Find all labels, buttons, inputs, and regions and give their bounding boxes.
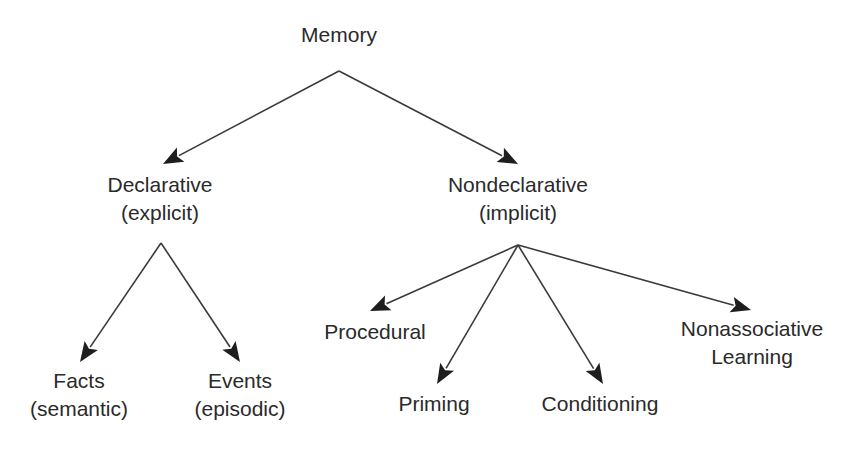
edge-declarative-to-facts	[80, 243, 161, 362]
edge-nondeclarative-to-priming	[437, 245, 518, 384]
node-nonassociative: NonassociativeLearning	[681, 317, 823, 368]
edge-nondeclarative-to-procedural	[370, 245, 518, 311]
node-label-nondeclarative-line-2: (implicit)	[479, 201, 557, 224]
node-facts: Facts(semantic)	[30, 369, 128, 420]
edge-line	[339, 71, 502, 156]
node-label-conditioning-line-1: Conditioning	[542, 392, 659, 415]
edge-line	[518, 245, 734, 305]
node-procedural: Procedural	[324, 320, 426, 343]
node-label-memory-line-1: Memory	[301, 23, 377, 46]
arrowhead-icon	[222, 341, 240, 362]
arrowhead-icon	[437, 363, 454, 384]
edge-line	[179, 71, 339, 156]
edge-memory-to-declarative	[163, 71, 339, 164]
edge-line	[446, 245, 518, 368]
node-label-events-line-2: (episodic)	[194, 397, 285, 420]
node-label-nondeclarative-line-1: Nondeclarative	[448, 173, 588, 196]
node-declarative: Declarative(explicit)	[107, 173, 212, 224]
edge-line	[90, 243, 161, 347]
memory-taxonomy-diagram: MemoryDeclarative(explicit)Nondeclarativ…	[0, 0, 859, 453]
edge-line	[386, 245, 518, 304]
node-nondeclarative: Nondeclarative(implicit)	[448, 173, 588, 224]
node-memory: Memory	[301, 23, 377, 46]
arrowhead-icon	[497, 148, 518, 164]
node-label-procedural-line-1: Procedural	[324, 320, 426, 343]
node-conditioning: Conditioning	[542, 392, 659, 415]
node-priming: Priming	[398, 392, 469, 415]
arrowhead-icon	[586, 363, 603, 384]
node-label-facts-line-1: Facts	[53, 369, 104, 392]
arrowhead-icon	[163, 148, 184, 164]
edge-line	[161, 243, 230, 347]
node-label-events-line-1: Events	[208, 369, 272, 392]
edge-declarative-to-events	[161, 243, 240, 362]
edge-memory-to-nondeclarative	[339, 71, 518, 164]
node-label-nonassociative-line-2: Learning	[711, 345, 793, 368]
node-label-declarative-line-1: Declarative	[107, 173, 212, 196]
node-label-nonassociative-line-1: Nonassociative	[681, 317, 823, 340]
node-label-priming-line-1: Priming	[398, 392, 469, 415]
node-events: Events(episodic)	[194, 369, 285, 420]
node-label-facts-line-2: (semantic)	[30, 397, 128, 420]
nodes-layer: MemoryDeclarative(explicit)Nondeclarativ…	[30, 23, 823, 420]
node-label-declarative-line-2: (explicit)	[121, 201, 199, 224]
arrowhead-icon	[80, 341, 98, 362]
